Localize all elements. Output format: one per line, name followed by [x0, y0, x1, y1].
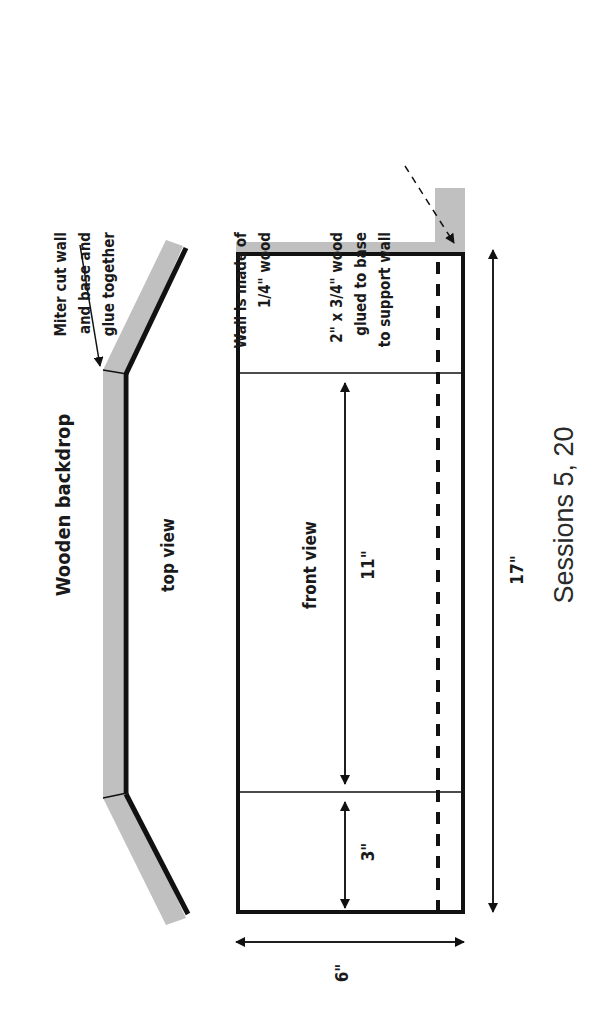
wall-note-line-1: Wall is made of [232, 232, 250, 349]
miter-note-line-1: Miter cut wall [52, 232, 70, 337]
support-note-line-2: glued to base [352, 232, 370, 336]
dimension-17-label: 17" [507, 555, 527, 584]
support-block [435, 188, 465, 253]
miter-note-line-2: and base and [76, 232, 94, 334]
dimension-6-label: 6" [332, 964, 352, 983]
miter-note-line-3: glue together [100, 232, 118, 337]
dimension-3-label: 3" [358, 843, 378, 862]
top-view-label: top view [158, 518, 178, 592]
wooden-backdrop-diagram: Wooden backdrop top view Miter cut wall … [0, 0, 604, 1026]
front-view-label: front view [300, 521, 320, 609]
support-note-line-1: 2" x 3/4" wood [328, 232, 346, 343]
diagram-title: Wooden backdrop [51, 414, 75, 597]
top-view-wood-middle [103, 370, 123, 798]
support-note-line-3: to support wall [376, 232, 394, 347]
front-view-outline [238, 254, 463, 912]
sessions-caption: Sessions 5, 20 [549, 426, 579, 603]
dimension-11-label: 11" [358, 550, 378, 579]
wall-note-line-2: 1/4" wood [256, 232, 274, 308]
top-view-wood-lower [103, 793, 186, 925]
